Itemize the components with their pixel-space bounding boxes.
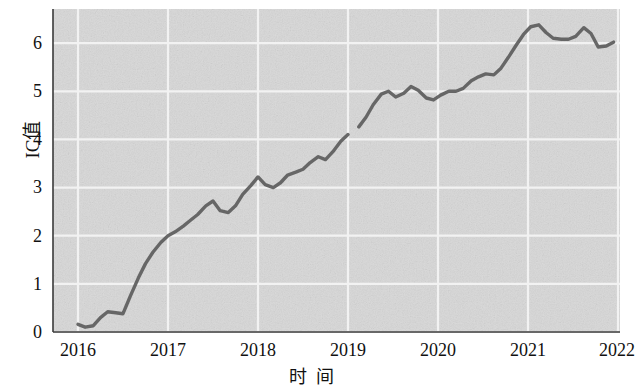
x-axis-title-char-2: 间 <box>316 367 334 387</box>
y-tick-label: 1 <box>8 275 42 293</box>
x-tick-label: 2021 <box>485 340 571 360</box>
x-tick-label: 2018 <box>215 340 301 360</box>
x-tick-label: 2017 <box>125 340 211 360</box>
y-tick-label: 2 <box>8 227 42 245</box>
x-tick-label: 2020 <box>395 340 481 360</box>
y-tick-label: 3 <box>8 178 42 196</box>
y-tick-label: 6 <box>8 34 42 52</box>
x-axis-title: 时间 <box>0 362 623 388</box>
x-tick-label: 2022 <box>574 340 639 360</box>
x-axis-title-char-1: 时 <box>289 367 307 387</box>
x-tick-label: 2019 <box>305 340 391 360</box>
y-axis-title: IC值 <box>17 104 44 176</box>
y-tick-label: 5 <box>8 82 42 100</box>
x-tick-label: 2016 <box>35 340 121 360</box>
y-tick-label: 0 <box>8 323 42 341</box>
